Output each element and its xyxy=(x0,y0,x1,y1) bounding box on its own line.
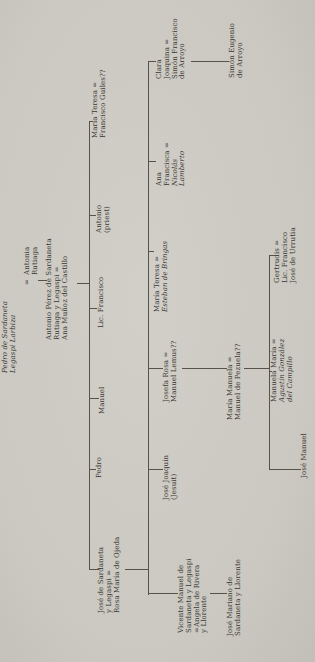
connector-stub-antonio-priest xyxy=(89,215,96,216)
connector-stub-josefa-rosa xyxy=(148,368,163,369)
node-jose-manuel-line-1: José Manuel xyxy=(301,433,309,478)
connector-vicente-descent xyxy=(210,593,227,594)
connector-stub-gertrudis xyxy=(269,255,275,256)
connector-stub-jose-joaquin xyxy=(148,469,163,470)
connector-stub-maria-teresa-bringas xyxy=(148,251,154,252)
connector-gen3-sibling-line xyxy=(89,122,90,570)
node-maria-teresa-bringas: María Teresa =Esteban de Bringas xyxy=(154,241,170,312)
node-josefa-rosa-line-2: Manuel Lemus?? xyxy=(171,341,179,402)
connector-josefa-descent xyxy=(182,368,227,369)
node-josefa-rosa: Josefa Rosa =Manuel Lemus?? xyxy=(163,341,179,402)
node-antonio-priest-line-2: (priest) xyxy=(104,205,112,233)
connector-stub-maria-teresa-guiles xyxy=(89,121,93,122)
node-vicente-manuel-de-sardaneta-line-4: y Llorente xyxy=(201,558,209,633)
node-vicente-manuel-de-sardaneta: Vicente Manuel deSardaneta y Legaspi=Ang… xyxy=(178,558,209,633)
connector-stub-manuela-maria xyxy=(269,371,272,372)
node-simon-eugenio-de-arroyo-line-2: de Arroyo xyxy=(237,23,245,78)
node-gertrudis: Gertrudis =Lic. FranciscoJosé de Urrutia xyxy=(274,227,297,283)
node-lic-francisco-line-1: Lic. Francisco xyxy=(98,277,106,328)
node-simon-eugenio-de-arroyo: Simón Eugeniode Arroyo xyxy=(229,23,245,78)
node-pedro-sardaneta-legaspi-line-2: Legaspi Larbiza xyxy=(10,301,18,373)
connector-stub-clara-joaquina xyxy=(148,61,156,62)
node-pedro: Pedro xyxy=(96,457,104,478)
scanned-page: Pedro de SardanetaLegaspi Larbiza=Antoni… xyxy=(0,0,315,662)
connector-stub-ana-francisca xyxy=(148,161,156,162)
node-pedro-sardaneta-legaspi: Pedro de SardanetaLegaspi Larbiza xyxy=(2,301,18,373)
connector-gen6-sibling-line xyxy=(269,256,270,470)
node-lic-francisco: Lic. Francisco xyxy=(98,277,106,328)
node-ana-francisca-line-4: Lamberto xyxy=(179,142,187,186)
node-clara-joaquina-line-4: de Arroyo xyxy=(179,18,187,79)
connector-stub-pedro xyxy=(89,469,96,470)
connector-g1-descent xyxy=(38,280,47,281)
connector-maria-manuela-descent xyxy=(244,368,269,369)
node-maria-teresa-guiles: María Teresa =Francisco Guiles?? xyxy=(92,69,108,138)
node-jose-mariano: José Mariano deSardaneta y Llorente xyxy=(227,559,243,636)
node-antonio-perez-de-sardaneta-line-3: Ana Muñoz del Castillo xyxy=(62,238,70,340)
connector-stub-manuel xyxy=(89,398,99,399)
node-jose-manuel: José Manuel xyxy=(301,433,309,478)
node-manuela-maria-line-3: del Campillo xyxy=(287,338,295,402)
node-maria-teresa-guiles-line-2: Francisco Guiles?? xyxy=(100,69,108,138)
node-jose-joaquin-jesuit: José Joaquín(Jesuit) xyxy=(163,455,179,500)
node-gertrudis-line-3: José de Urrutia xyxy=(290,227,298,283)
connector-stub-lic-francisco xyxy=(89,308,97,309)
family-tree-chart: Pedro de SardanetaLegaspi Larbiza=Antoni… xyxy=(0,0,315,662)
connector-clara-descent xyxy=(191,61,229,62)
node-manuel-line-1: Manuel xyxy=(99,387,107,414)
node-ana-francisca: AnaFrancisca =NicolásLamberto xyxy=(156,142,187,186)
node-jose-de-sardaneta-y-legaspi-line-3: Rosa María de Ojeda xyxy=(114,537,122,613)
node-g1-equals-line-1: = xyxy=(24,279,32,285)
node-antonia-rutiaga: AntoniaRutiaga xyxy=(24,247,40,275)
connector-stub-jose-de-sardaneta xyxy=(89,569,99,570)
node-manuel: Manuel xyxy=(99,387,107,414)
node-maria-manuela: María Manuela =Manuel de Pezuela?? xyxy=(227,343,243,420)
node-jose-de-sardaneta-y-legaspi: José de Sardanetay Legaspi =Rosa María d… xyxy=(98,537,121,613)
connector-stub-jose-manuel xyxy=(269,469,301,470)
connector-gen4-sibling-line xyxy=(148,62,149,595)
node-maria-teresa-bringas-line-2: Esteban de Bringas xyxy=(162,241,170,312)
node-jose-joaquin-jesuit-line-2: (Jesuit) xyxy=(171,455,179,500)
node-g1-equals: = xyxy=(24,279,32,285)
node-antonia-rutiaga-line-2: Rutiaga xyxy=(32,247,40,275)
node-maria-manuela-line-2: Manuel de Pezuela?? xyxy=(235,343,243,420)
connector-stub-vicente xyxy=(148,593,178,594)
node-antonio-perez-de-sardaneta: Antonio Pérez de SardanetaRutiaga y Lega… xyxy=(46,238,69,340)
node-pedro-line-1: Pedro xyxy=(96,457,104,478)
node-manuela-maria: Manuela María =Agustín Gonzálezdel Campi… xyxy=(271,338,294,402)
node-clara-joaquina: ClaraJoaquina =Simón Franciscode Arroyo xyxy=(156,18,187,79)
connector-jose-descent xyxy=(125,569,148,570)
node-antonio-priest: Antonio(priest) xyxy=(96,205,112,233)
node-jose-mariano-line-2: Sardaneta y Llorente xyxy=(235,559,243,636)
